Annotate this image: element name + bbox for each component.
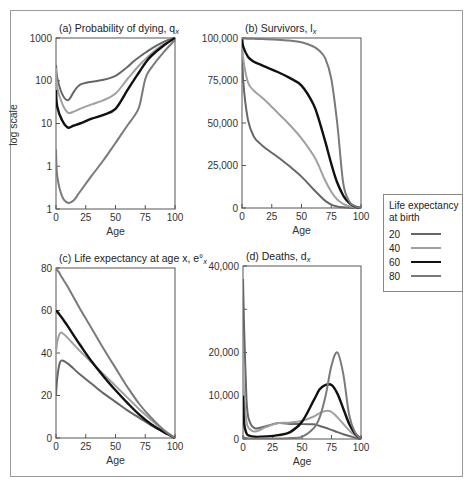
- series-line-80: [56, 40, 175, 203]
- series-line-60: [56, 38, 175, 128]
- legend-label: 20: [389, 229, 407, 240]
- legend-entry-20: 20: [389, 227, 462, 241]
- x-tick-label: 100: [167, 441, 184, 452]
- legend-title: Life expectancy at birth: [389, 200, 462, 224]
- y-tick-label: 1000: [30, 33, 53, 44]
- x-tick-label: 50: [110, 212, 122, 223]
- x-tick-label: 50: [296, 211, 308, 222]
- panel-survivors: (b) Survivors, lx0255075100Age100,00075,…: [202, 22, 370, 236]
- panel-deaths: (d) Deaths, dx0255075100Age40,00020,0001…: [208, 250, 369, 467]
- x-tick-label: 75: [326, 211, 338, 222]
- legend-entry-80: 80: [389, 269, 462, 283]
- legend-line-swatch: [411, 233, 441, 235]
- x-tick-label: 0: [239, 211, 245, 222]
- x-tick-label: 25: [80, 441, 92, 452]
- panel-title: (c) Life expectancy at age x, e°x: [59, 252, 207, 266]
- y-tick-label: 20,000: [208, 347, 239, 358]
- series-line-60: [56, 311, 175, 439]
- x-tick-label: 0: [240, 442, 246, 453]
- y-tick-label: 1: [46, 204, 52, 215]
- y-tick-label: 20: [41, 390, 53, 401]
- x-tick-label: 25: [266, 211, 278, 222]
- legend-label: 40: [389, 243, 407, 254]
- y-tick-label: 50,000: [207, 118, 238, 129]
- plot-area: [56, 38, 175, 209]
- x-tick-label: 0: [53, 212, 59, 223]
- legend-label: 80: [389, 271, 407, 282]
- y-tick-label: 40,000: [208, 261, 239, 272]
- y-tick-label: 100: [35, 75, 52, 86]
- x-tick-label: 0: [53, 441, 59, 452]
- series-line-20: [243, 279, 361, 439]
- plot-area: [56, 268, 175, 438]
- x-tick-label: 25: [80, 212, 92, 223]
- legend: Life expectancy at birth 20 40 60 80: [383, 194, 463, 292]
- series-line-80: [243, 352, 361, 439]
- legend-entry-40: 40: [389, 241, 462, 255]
- x-tick-label: 75: [326, 442, 338, 453]
- x-axis-label: Age: [292, 224, 311, 236]
- legend-label: 60: [389, 257, 407, 268]
- series-line-20: [56, 38, 175, 100]
- x-tick-label: 75: [140, 441, 152, 452]
- series-line-20: [56, 360, 175, 438]
- y-tick-label: 10,000: [208, 390, 239, 401]
- y-tick-label: 0: [46, 433, 52, 444]
- y-tick-label: 0: [232, 203, 238, 214]
- x-tick-label: 50: [110, 441, 122, 452]
- x-tick-label: 100: [353, 442, 370, 453]
- legend-entry-60: 60: [389, 255, 462, 269]
- y-tick-label: 10: [41, 118, 53, 129]
- legend-line-swatch: [411, 275, 441, 277]
- x-axis-label: Age: [106, 454, 125, 466]
- panel-title: (d) Deaths, dx: [246, 250, 311, 264]
- y-tick-label: 60: [41, 305, 53, 316]
- plot-area: [243, 266, 361, 439]
- panel-title: (a) Probability of dying, qx: [59, 22, 179, 36]
- y-tick-label: 25,000: [207, 160, 238, 171]
- x-axis-label: Age: [293, 455, 312, 467]
- x-tick-label: 50: [296, 442, 308, 453]
- x-tick-label: 75: [140, 212, 152, 223]
- panel-title: (b) Survivors, lx: [245, 22, 317, 36]
- panel-life-expectancy: (c) Life expectancy at age x, e°x0255075…: [41, 252, 207, 466]
- y-tick-label: 80: [41, 263, 53, 274]
- series-line-40: [56, 332, 175, 438]
- y-tick-label: 75,000: [207, 75, 238, 86]
- x-tick-label: 100: [167, 212, 184, 223]
- x-tick-label: 100: [353, 211, 370, 222]
- y-axis-label-log-scale: log scale: [7, 104, 19, 146]
- series-line-40: [243, 353, 361, 440]
- panel-probability-of-dying: (a) Probability of dying, qx0255075100Ag…: [30, 22, 184, 237]
- x-tick-label: 25: [267, 442, 279, 453]
- y-tick-label: 0: [233, 434, 239, 445]
- x-axis-label: Age: [106, 225, 125, 237]
- series-line-80: [56, 268, 175, 438]
- y-tick-label: 100,000: [202, 33, 239, 44]
- legend-line-swatch: [411, 247, 441, 249]
- legend-line-swatch: [411, 261, 441, 263]
- y-tick-label: 40: [41, 348, 53, 359]
- y-tick-label: 1: [46, 161, 52, 172]
- series-line-60: [243, 384, 361, 439]
